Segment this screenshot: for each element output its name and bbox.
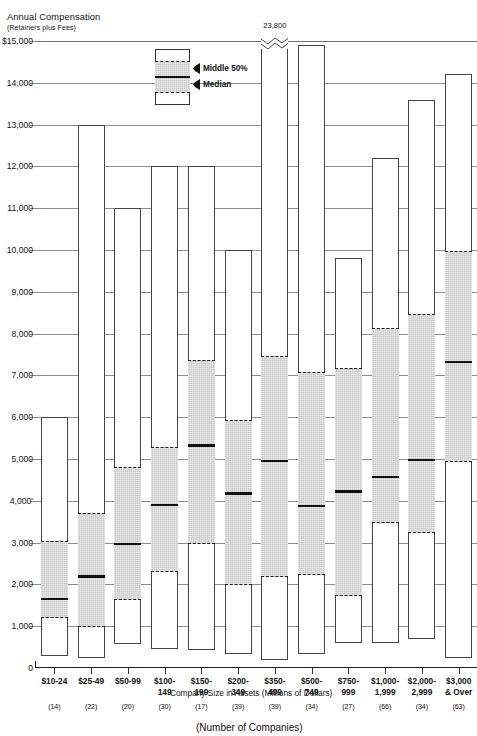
y-tick-label: 12,000 [0, 162, 33, 170]
legend-label-median: Median [203, 80, 231, 89]
middle-50-box [41, 541, 68, 617]
legend-entry-middle50: Middle 50% [193, 63, 248, 74]
y-tick-label: 11,000 [0, 204, 33, 212]
bar-range: 23,800 [261, 41, 288, 660]
y-tick-label: 4,000' [0, 497, 33, 505]
x-axis-title: Company Size in Assets (Millions of Doll… [170, 688, 470, 698]
legend-sample-bar [155, 49, 190, 105]
legend-entry-median: Median [193, 79, 231, 90]
x-tick-mark [201, 668, 202, 674]
x-tick-mark [348, 668, 349, 674]
median-line [261, 460, 288, 462]
zero-axis-line [36, 667, 477, 668]
gridline [36, 41, 477, 42]
y-tick-label: 5,000 [0, 455, 33, 463]
pointer-icon [193, 63, 200, 74]
y-tick-label: 14,000 [0, 79, 33, 87]
x-tick-mark [238, 668, 239, 674]
median-line [298, 505, 325, 507]
x-tick-mark [459, 668, 460, 674]
middle-50-box [408, 314, 435, 533]
axis-break-value-label: 23,800 [263, 21, 286, 30]
median-line [114, 543, 141, 545]
median-line [78, 575, 105, 577]
median-line [41, 598, 68, 600]
median-line [335, 490, 362, 492]
y-tick-label: 0 [0, 664, 33, 672]
x-tick-mark [422, 668, 423, 674]
bar-range [188, 166, 215, 650]
axis-break-icon [261, 33, 288, 49]
middle-50-box [225, 420, 252, 585]
middle-50-box [261, 356, 288, 578]
median-line [225, 492, 252, 494]
x-tick-mark [165, 668, 166, 674]
median-line [151, 504, 178, 506]
x-tick-mark [385, 668, 386, 674]
bar-range [445, 74, 472, 657]
bar-range [114, 208, 141, 644]
middle-50-box [335, 368, 362, 596]
y-axis-subtitle: (Retainers plus Fees) [7, 24, 76, 31]
x-tick-mark [54, 668, 55, 674]
bar-range [298, 45, 325, 654]
bar-range [335, 258, 362, 643]
bar-chart: Annual Compensation (Retainers plus Fees… [0, 0, 477, 736]
x-tick-mark [275, 668, 276, 674]
axis-corner [35, 661, 36, 668]
y-tick-label: 3,000 [0, 539, 33, 547]
y-tick-label: 7,000 [0, 371, 33, 379]
y-tick-label: 10,000 [0, 246, 33, 254]
legend: Middle 50% Median [155, 49, 275, 105]
bar-range [372, 158, 399, 643]
x-tick-mark [128, 668, 129, 674]
bar-range [78, 125, 105, 658]
x-axis-subtitle: (Number of Companies) [196, 722, 476, 733]
x-tick-mark [91, 668, 92, 674]
middle-50-box [114, 467, 141, 600]
middle-50-box [188, 360, 215, 544]
y-tick-label: $15,000 [0, 37, 33, 45]
median-line [408, 459, 435, 461]
middle-50-box [372, 328, 399, 522]
median-line [188, 444, 215, 446]
y-tick-label: 13,000 [0, 121, 33, 129]
median-line [372, 476, 399, 478]
plot-area: 23,800 [36, 41, 477, 668]
y-axis-title: Annual Compensation [7, 12, 100, 22]
middle-50-box [151, 447, 178, 571]
bar-range [225, 250, 252, 654]
legend-label-middle50: Middle 50% [203, 64, 248, 73]
company-count-label: (63) [437, 703, 477, 710]
y-tick-label: 1,000 [0, 622, 33, 630]
middle-50-box [298, 372, 325, 575]
pointer-icon [193, 79, 200, 90]
legend-median-line [155, 76, 190, 78]
y-tick-label: 9,000 [0, 288, 33, 296]
y-tick-label: 8,000 [0, 330, 33, 338]
middle-50-box [78, 513, 105, 627]
bar-range [151, 166, 178, 649]
y-tick-label: 6,000 [0, 413, 33, 421]
middle-50-box [445, 251, 472, 462]
x-tick-mark [312, 668, 313, 674]
y-tick-label: 2,000 [0, 580, 33, 588]
median-line [445, 361, 472, 363]
bar-range [41, 417, 68, 656]
bar-range [408, 100, 435, 639]
